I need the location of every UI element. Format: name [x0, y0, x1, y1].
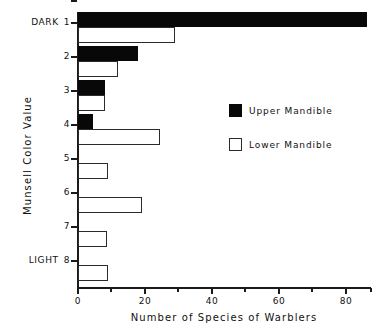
y-label-7: 7 — [64, 221, 70, 231]
bar-upper-3 — [78, 80, 105, 95]
y-tick-6 — [71, 192, 77, 194]
x-tick-end — [370, 288, 372, 292]
bar-lower-1 — [78, 27, 175, 43]
x-axis-title: Number of Species of Warblers — [77, 312, 371, 323]
legend-item-upper-mandible: Upper Mandible — [229, 104, 333, 117]
y-tick-1 — [71, 22, 77, 24]
legend-item-lower-mandible: Lower Mandible — [229, 138, 332, 151]
bar-lower-7 — [78, 231, 107, 247]
bar-upper-1 — [78, 12, 367, 27]
y-label-5: 5 — [64, 153, 70, 163]
y-label-5-value: 5 — [64, 153, 70, 163]
legend-label-lower-mandible: Lower Mandible — [249, 140, 332, 150]
x-label-0: 0 — [75, 296, 81, 306]
y-label-2-value: 2 — [64, 51, 70, 61]
x-label-80: 80 — [340, 296, 353, 306]
x-tick-30 — [177, 288, 179, 292]
y-label-1-endcap: DARK — [31, 17, 58, 27]
x-tick-10 — [110, 288, 112, 292]
x-tick-20 — [144, 288, 146, 294]
x-label-40: 40 — [206, 296, 219, 306]
legend-swatch-hollow-icon — [229, 138, 242, 151]
x-tick-70 — [311, 288, 313, 292]
x-axis-line — [77, 287, 371, 289]
x-tick-40 — [211, 288, 213, 294]
y-label-8: LIGHT8 — [29, 255, 70, 265]
bar-upper-2 — [78, 46, 138, 61]
y-label-8-endcap: LIGHT — [29, 255, 59, 265]
x-tick-80 — [345, 288, 347, 294]
y-label-4: 4 — [64, 119, 70, 129]
bar-chart: Munsell Color Value DARK1 2 3 4 5 6 7 LI… — [0, 0, 385, 333]
bar-lower-2 — [78, 61, 118, 77]
x-tick-60 — [278, 288, 280, 294]
x-label-20: 20 — [139, 296, 152, 306]
bar-lower-6 — [78, 197, 142, 213]
y-tick-5 — [71, 158, 77, 160]
bar-lower-5 — [78, 163, 108, 179]
y-label-3: 3 — [64, 85, 70, 95]
y-label-7-value: 7 — [64, 221, 70, 231]
y-label-1-value: 1 — [64, 17, 70, 27]
y-label-2: 2 — [64, 51, 70, 61]
bar-lower-3 — [78, 95, 105, 111]
bar-lower-8 — [78, 265, 108, 281]
y-label-6: 6 — [64, 187, 70, 197]
y-axis-title: Munsell Color Value — [22, 76, 33, 236]
y-label-8-value: 8 — [64, 255, 70, 265]
bar-lower-4 — [78, 129, 160, 145]
y-label-3-value: 3 — [64, 85, 70, 95]
y-tick-7 — [71, 226, 77, 228]
x-label-60: 60 — [273, 296, 286, 306]
y-label-4-value: 4 — [64, 119, 70, 129]
y-tick-5x — [71, 0, 77, 2]
y-tick-8 — [71, 260, 77, 262]
legend-swatch-filled-icon — [229, 104, 242, 117]
y-label-1: DARK1 — [31, 17, 70, 27]
x-tick-0 — [77, 288, 79, 294]
bar-upper-4 — [78, 114, 93, 129]
x-tick-50 — [244, 288, 246, 292]
legend-label-upper-mandible: Upper Mandible — [249, 106, 333, 116]
y-tick-4 — [71, 124, 77, 126]
y-label-6-value: 6 — [64, 187, 70, 197]
y-tick-3 — [71, 90, 77, 92]
y-tick-2 — [71, 56, 77, 58]
